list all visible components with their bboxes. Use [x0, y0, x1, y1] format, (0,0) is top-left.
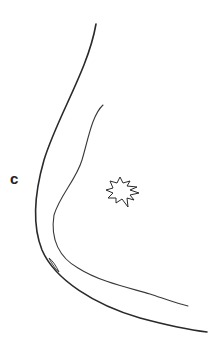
- starburst-marker: [106, 177, 139, 207]
- line-drawing: [0, 0, 224, 343]
- panel-label: c: [10, 170, 18, 187]
- figure-canvas: c: [0, 0, 224, 343]
- inner-contour: [53, 105, 188, 306]
